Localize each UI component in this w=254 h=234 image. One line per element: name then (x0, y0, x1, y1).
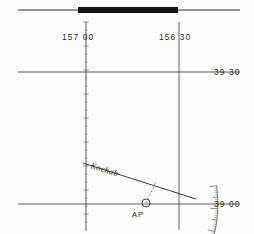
meridian-157-00-label: 157 00 (62, 32, 94, 42)
parallel-39-00-label: 39 00 (214, 199, 240, 209)
parallels-group (18, 72, 240, 204)
meridian-156-30-label: 156 30 (159, 32, 191, 42)
plotting-sheet: 102030 157 00 156 30 39 30 39 00 Kochab … (0, 0, 254, 234)
compass-rose-ticks (20, 186, 218, 234)
scale-bar-body (78, 7, 178, 13)
parallel-39-30-label: 39 30 (214, 67, 240, 77)
kochab-star-label: Kochab (88, 160, 120, 178)
assumed-position-label: AP (132, 210, 144, 219)
latitude-scale-bar-group (18, 7, 240, 13)
compass-rose-arc (20, 186, 218, 234)
plotting-sheet-canvas: 102030 157 00 156 30 39 30 39 00 Kochab … (0, 0, 254, 234)
labels-group: 157 00 156 30 39 30 39 00 Kochab AP (62, 32, 240, 219)
meridians-group (86, 22, 179, 230)
compass-rose-group: 102030 (20, 186, 218, 234)
